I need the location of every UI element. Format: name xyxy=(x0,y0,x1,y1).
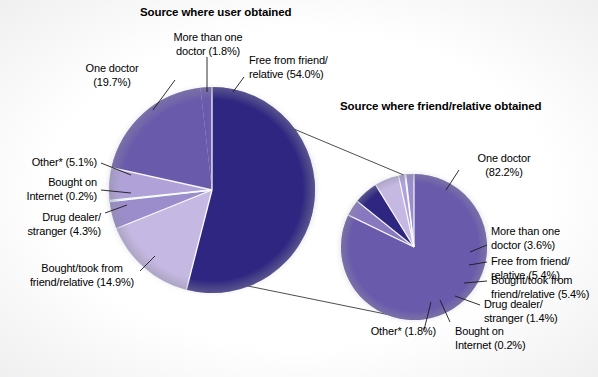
left-label-drug-dealer-stranger: Drug dealer/ stranger (4.3%) xyxy=(0,211,101,238)
left-label-more-than-one-doctor: More than one doctor (1.8%) xyxy=(160,31,256,58)
right-label-more-than-one-doctor: More than one doctor (3.6%) xyxy=(491,225,560,252)
right-pie xyxy=(341,174,487,320)
right-label-other: Other* (1.8%) xyxy=(370,325,436,339)
right-label-one-doctor: One doctor (82.2%) xyxy=(452,152,556,179)
right-label-bought-took-from-friend-relative: Bought/took from friend/relative (5.4%) xyxy=(491,274,589,301)
left-label-bought-on-internet: Bought on Internet (0.2%) xyxy=(0,176,97,203)
right-label-drug-dealer-stranger: Drug dealer/ stranger (1.4%) xyxy=(484,298,558,325)
right-chart-title: Source where friend/relative obtained xyxy=(340,100,541,112)
left-label-other: Other* (5.1%) xyxy=(5,156,97,170)
left-label-one-doctor: One doctor (19.7%) xyxy=(57,62,167,89)
right-label-bought-on-internet: Bought on Internet (0.2%) xyxy=(455,325,526,352)
left-chart-title: Source where user obtained xyxy=(140,6,291,18)
left-label-free-from-friend-relative: Free from friend/ relative (54.0%) xyxy=(249,54,328,81)
chart-canvas: Source where user obtained Source where … xyxy=(0,0,598,377)
left-label-bought-took-from-friend-relative: Bought/took from friend/relative (14.9%) xyxy=(22,262,142,289)
